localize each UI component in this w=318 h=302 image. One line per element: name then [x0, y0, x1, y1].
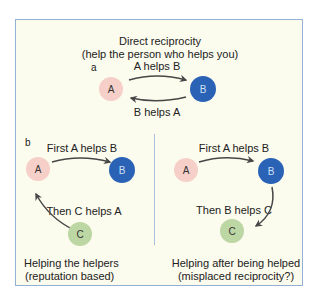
panel-b-right-graphics: A B C — [174, 158, 284, 243]
diagram-graphics: A B A B C A B C — [0, 0, 318, 302]
node-right-b-label: B — [268, 166, 275, 177]
arrow-b-to-a — [131, 97, 186, 101]
node-a-label: A — [108, 84, 115, 95]
node-b-label: B — [200, 84, 207, 95]
node-right-a-label: A — [183, 165, 190, 176]
node-right-c-label: C — [228, 226, 235, 237]
panel-a-graphics: A B — [99, 76, 216, 102]
arrow-right-b-to-c — [256, 187, 273, 226]
arrow-a-to-b — [129, 76, 186, 80]
arrow-left-a-to-b — [52, 158, 110, 162]
arrow-right-a-to-b — [199, 158, 253, 162]
panel-b-left-graphics: A B C — [26, 157, 135, 246]
node-left-b-label: B — [119, 165, 126, 176]
node-left-a-label: A — [35, 164, 42, 175]
arrow-left-c-to-a — [36, 194, 74, 230]
node-left-c-label: C — [76, 229, 83, 240]
